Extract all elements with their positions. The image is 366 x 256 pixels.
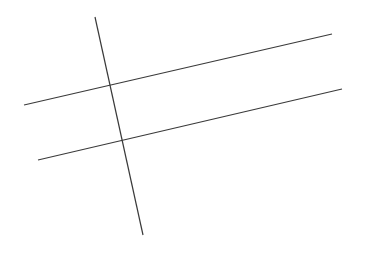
figure-canvas xyxy=(0,0,366,256)
line-figure xyxy=(0,0,366,256)
